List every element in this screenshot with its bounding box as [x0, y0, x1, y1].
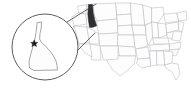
state-south-dakota [117, 14, 132, 26]
state-oklahoma [118, 46, 136, 56]
state-wyoming [97, 19, 118, 34]
state-montana [93, 3, 117, 21]
state-new-england [177, 11, 187, 21]
state-tennessee [150, 44, 170, 51]
main-us-map-group [72, 3, 187, 80]
map-svg-canvas [0, 0, 191, 94]
state-louisiana [137, 58, 151, 68]
state-virginia [172, 31, 182, 41]
state-mississippi [150, 51, 157, 66]
state-iowa [132, 25, 146, 35]
state-alabama [157, 51, 165, 65]
state-arkansas [136, 47, 150, 59]
state-new-york [164, 13, 179, 23]
state-arizona [90, 44, 101, 60]
state-new-mexico [100, 46, 118, 60]
state-michigan [152, 7, 164, 23]
us-map-figure [0, 0, 191, 94]
state-kentucky [153, 38, 169, 44]
state-north-carolina [170, 42, 181, 50]
state-missouri [134, 35, 148, 49]
state-oregon [72, 13, 87, 26]
state-kansas [118, 35, 135, 47]
state-ohio [158, 23, 167, 38]
state-nebraska [118, 25, 134, 35]
state-mid-atlantic [179, 21, 184, 32]
state-colorado [99, 33, 118, 46]
state-north-dakota [116, 3, 131, 15]
state-florida [165, 63, 180, 80]
